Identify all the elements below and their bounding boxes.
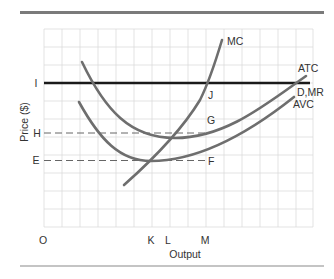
x-tick-m: M bbox=[201, 234, 210, 246]
y-tick-h: H bbox=[33, 127, 41, 139]
point-f-label: F bbox=[208, 155, 214, 167]
avc-label: AVC bbox=[293, 98, 314, 110]
y-tick-e: E bbox=[32, 154, 39, 166]
x-tick-l: L bbox=[165, 234, 171, 246]
dmr-label: D,MR bbox=[297, 86, 324, 98]
mc-label: MC bbox=[227, 35, 244, 47]
origin-label: O bbox=[39, 234, 47, 246]
x-tick-k: K bbox=[147, 234, 154, 246]
y-tick-i: I bbox=[35, 77, 38, 89]
x-axis-title: Output bbox=[169, 248, 201, 260]
y-axis-title: Price ($) bbox=[18, 102, 30, 142]
cost-curves-chart: Price ($) Output O K L M I H E MC ATC D,… bbox=[0, 0, 334, 279]
point-j-label: J bbox=[208, 89, 213, 101]
point-g-label: G bbox=[207, 114, 215, 126]
atc-label: ATC bbox=[298, 62, 319, 74]
